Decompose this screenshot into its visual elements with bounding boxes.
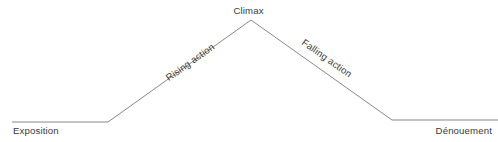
freytag-pyramid-diagram: Climax Exposition Dénouement Rising acti… <box>0 0 498 142</box>
label-exposition: Exposition <box>13 125 59 136</box>
plot-arc-graphic <box>0 0 498 142</box>
plot-arc-polyline <box>12 20 498 122</box>
label-denouement: Dénouement <box>436 125 492 136</box>
label-climax: Climax <box>0 5 498 16</box>
